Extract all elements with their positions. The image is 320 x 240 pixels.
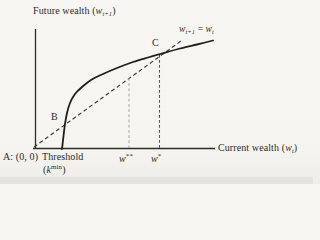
w-double-star-label: w** xyxy=(119,151,133,164)
threshold-kmin-label: (kmin) xyxy=(43,162,66,175)
point-a-label: A: (0, 0) xyxy=(3,151,38,162)
threshold-label: Threshold xyxy=(42,151,83,162)
scan-artifact-band xyxy=(0,177,313,184)
w-star-label: w* xyxy=(151,151,161,164)
point-b-label: B xyxy=(51,111,58,122)
y-axis-label: Future wealth (wt+1) xyxy=(33,5,116,19)
identity-45deg-line xyxy=(34,41,181,147)
poverty-trap-figure: Future wealth (wt+1) wt+1 = wt C B A: (0… xyxy=(0,0,313,184)
wealth-curve xyxy=(62,41,213,150)
identity-line-label: wt+1 = wt xyxy=(179,24,214,37)
point-c-label: C xyxy=(152,37,159,48)
x-axis-label: Current wealth (wt) xyxy=(218,142,297,156)
